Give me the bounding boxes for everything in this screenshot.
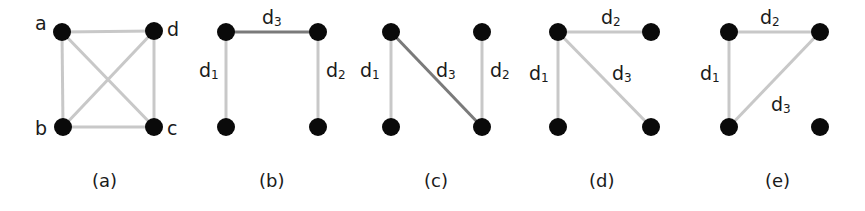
edge-label-d1: d1 [360,59,380,82]
panel-e: d2 d1 d3 (e) [700,6,829,191]
edge-label-d1: d1 [700,62,720,85]
node-top-right [309,23,327,41]
node-top-left [549,23,567,41]
edge-label-d3: d3 [436,59,456,82]
edge-label-d1: d1 [199,59,219,82]
caption-e: (e) [765,170,790,191]
edge-label-d3: d3 [771,93,791,116]
node-label-d: d [167,18,179,40]
node-bottom-right [309,118,327,136]
node-bottom-left [549,118,567,136]
node-bottom-left [720,118,738,136]
edge-label-d1: d1 [529,62,549,85]
graph-figure: a d b c (a) d3 d1 d2 (b) d1 d3 d2 (c) [0,0,865,211]
panel-d: d2 d1 d3 (d) [529,6,660,191]
node-bottom-right [811,118,829,136]
edge-a-b [62,32,63,127]
node-top-left [720,23,738,41]
node-top-left [217,23,235,41]
node-bottom-right [473,118,491,136]
edge-label-d3: d3 [262,6,282,29]
node-label-c: c [167,117,177,139]
node-bottom-right [642,118,660,136]
caption-b: (b) [259,170,284,191]
edge-label-d2: d2 [601,6,621,29]
caption-a: (a) [92,170,117,191]
panel-b: d3 d1 d2 (b) [199,6,346,191]
node-bottom-left [382,118,400,136]
node-top-left [382,23,400,41]
node-b [54,118,72,136]
node-top-right [811,23,829,41]
panel-c: d1 d3 d2 (c) [360,23,510,191]
node-d [145,22,163,40]
node-label-a: a [35,12,47,34]
node-bottom-left [217,118,235,136]
node-label-b: b [35,117,47,139]
edge-label-d2: d2 [760,6,780,29]
edge-d3 [558,32,651,127]
node-top-right [642,23,660,41]
edge-label-d2: d2 [326,59,346,82]
node-top-right [473,23,491,41]
caption-d: (d) [589,170,614,191]
edge-a-d [62,31,154,32]
caption-c: (c) [424,170,448,191]
node-c [145,118,163,136]
panel-a: a d b c (a) [35,12,179,191]
edge-label-d2: d2 [490,59,510,82]
node-a [53,23,71,41]
edge-label-d3: d3 [612,62,632,85]
